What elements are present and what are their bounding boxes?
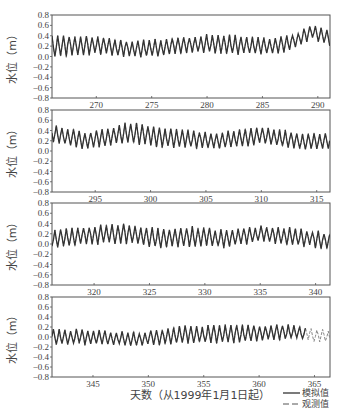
- y-tick-label: 0.6: [38, 115, 50, 125]
- y-tick-label: 0.0: [38, 332, 50, 342]
- simulated-series: [52, 324, 305, 345]
- y-tick-label: 0.0: [38, 52, 50, 62]
- y-tick-label: −0.2: [33, 156, 49, 166]
- y-tick-label: 0.6: [38, 302, 50, 312]
- legend-observed-label: 观测值: [302, 398, 329, 409]
- y-tick-label: 0.2: [38, 136, 49, 146]
- y-tick-label: −0.4: [33, 352, 50, 362]
- x-tick-label: 340: [309, 287, 323, 297]
- plot-frame: [52, 15, 330, 98]
- y-tick-label: 0.4: [38, 126, 50, 136]
- x-tick-label: 285: [256, 100, 270, 110]
- y-tick-label: 0.8: [38, 198, 50, 208]
- y-tick-label: −0.8: [33, 372, 50, 382]
- y-tick-label: −0.6: [33, 177, 50, 187]
- y-tick-label: −0.4: [33, 167, 50, 177]
- y-tick-label: −0.2: [33, 62, 49, 72]
- x-axis-label: 天数（从1999年1月1日起）: [130, 388, 271, 402]
- y-tick-label: 0.8: [38, 105, 50, 115]
- x-tick-label: 280: [200, 100, 214, 110]
- y-tick-label: −0.6: [33, 270, 50, 280]
- y-tick-label: 0.0: [38, 239, 50, 249]
- x-tick-label: 350: [142, 379, 156, 389]
- y-tick-label: 0.4: [38, 219, 50, 229]
- water-level-chart: 0.80.60.40.20.0−0.2−0.4−0.6−0.8270275280…: [0, 0, 339, 416]
- x-tick-label: 335: [253, 287, 267, 297]
- panel-4: 0.80.60.40.20.0−0.2−0.4−0.6−0.8345350355…: [5, 292, 330, 389]
- y-axis-label: 水位（m）: [5, 124, 19, 179]
- y-tick-label: 0.0: [38, 146, 50, 156]
- y-tick-label: −0.4: [33, 260, 50, 270]
- legend-simulated-label: 模拟值: [302, 387, 329, 398]
- y-tick-label: 0.2: [38, 41, 49, 51]
- x-tick-label: 270: [90, 100, 104, 110]
- y-axis-label: 水位（m）: [5, 217, 19, 272]
- y-tick-label: 0.4: [38, 31, 50, 41]
- y-tick-label: 0.4: [38, 312, 50, 322]
- y-tick-label: −0.8: [33, 93, 50, 103]
- plot-frame: [52, 203, 330, 285]
- legend: 模拟值观测值: [283, 387, 329, 409]
- y-axis-label: 水位（m）: [5, 310, 19, 365]
- y-axis-label: 水位（m）: [5, 29, 19, 84]
- x-tick-label: 320: [87, 287, 101, 297]
- simulated-series: [52, 123, 330, 150]
- x-tick-label: 330: [198, 287, 212, 297]
- y-tick-label: 0.2: [38, 229, 49, 239]
- x-tick-label: 345: [86, 379, 100, 389]
- y-tick-label: −0.6: [33, 83, 50, 93]
- simulated-series: [52, 26, 330, 57]
- x-tick-label: 355: [197, 379, 211, 389]
- y-tick-label: −0.2: [33, 342, 49, 352]
- y-tick-label: 0.6: [38, 20, 50, 30]
- plot-frame: [52, 297, 330, 377]
- panel-2: 0.80.60.40.20.0−0.2−0.4−0.6−0.8295300305…: [5, 105, 330, 204]
- panel-3: 0.80.60.40.20.0−0.2−0.4−0.6−0.8320325330…: [5, 198, 330, 297]
- y-tick-label: −0.6: [33, 362, 50, 372]
- x-tick-label: 290: [311, 100, 325, 110]
- y-tick-label: −0.8: [33, 187, 50, 197]
- y-tick-label: −0.4: [33, 72, 50, 82]
- y-tick-label: 0.8: [38, 292, 50, 302]
- simulated-series: [52, 224, 330, 249]
- y-tick-label: 0.6: [38, 208, 50, 218]
- plot-frame: [52, 110, 330, 192]
- x-tick-label: 360: [252, 379, 266, 389]
- y-tick-label: −0.8: [33, 280, 50, 290]
- y-tick-label: −0.2: [33, 249, 49, 259]
- y-tick-label: 0.2: [38, 322, 49, 332]
- panel-1: 0.80.60.40.20.0−0.2−0.4−0.6−0.8270275280…: [5, 10, 330, 110]
- x-tick-label: 275: [145, 100, 159, 110]
- x-tick-label: 325: [143, 287, 157, 297]
- y-tick-label: 0.8: [38, 10, 50, 20]
